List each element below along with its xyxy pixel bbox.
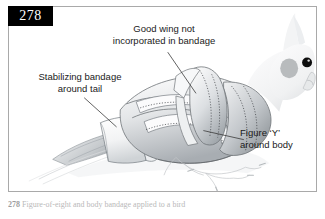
annotation-good-wing-line2: incorporated in bandage: [104, 35, 224, 47]
figure-caption-text: Figure-of-eight and body bandage applied…: [22, 200, 185, 209]
cheek-patch: [280, 58, 298, 78]
annotation-figure-y-line1: Figure ‘Y’: [240, 127, 320, 139]
figure-container: 278 Good wing not incorporated in bandag…: [0, 0, 325, 219]
figure-caption-number: 278: [8, 200, 20, 209]
page-number-badge: 278: [8, 6, 53, 26]
figure-caption: 278 Figure-of-eight and body bandage app…: [8, 200, 317, 212]
annotation-stabilizing-bandage: Stabilizing bandage around tail: [26, 71, 134, 94]
annotation-figure-y-line2: around body: [240, 139, 320, 151]
eye: [302, 57, 312, 67]
annotation-good-wing-line1: Good wing not: [104, 23, 224, 35]
annotation-stabilizing-bandage-line1: Stabilizing bandage: [26, 71, 134, 83]
annotation-stabilizing-bandage-line2: around tail: [26, 83, 134, 95]
annotation-good-wing: Good wing not incorporated in bandage: [104, 23, 224, 46]
annotation-figure-y: Figure ‘Y’ around body: [240, 127, 320, 150]
